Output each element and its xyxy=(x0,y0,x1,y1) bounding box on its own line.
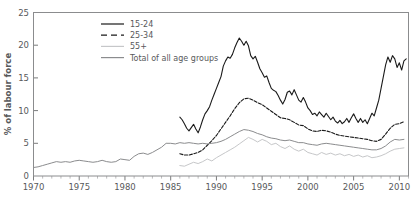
x-tick-label: 1975 xyxy=(68,182,90,192)
chart-figure: 0510152025 19701975198019851990199520002… xyxy=(0,0,419,200)
legend-label-3: Total of all age groups xyxy=(129,54,218,63)
legend-label-2: 55+ xyxy=(130,42,147,51)
x-axis-tick-labels: 197019751980198519901995200020052010 xyxy=(23,182,410,192)
y-tick-label: 0 xyxy=(24,171,29,181)
y-tick-label: 5 xyxy=(24,138,29,148)
x-tick-label: 1995 xyxy=(251,182,273,192)
x-tick-label: 1970 xyxy=(23,182,45,192)
x-tick-label: 1985 xyxy=(160,182,182,192)
y-axis-title: % of labour force xyxy=(3,53,13,136)
y-tick-label: 20 xyxy=(18,40,29,50)
line-chart-svg: 0510152025 19701975198019851990199520002… xyxy=(0,0,419,200)
x-tick-label: 2010 xyxy=(389,182,411,192)
y-tick-label: 25 xyxy=(18,8,29,18)
chart-background xyxy=(0,0,419,200)
x-tick-label: 1980 xyxy=(114,182,136,192)
legend-label-0: 15-24 xyxy=(130,20,153,29)
x-tick-label: 2000 xyxy=(297,182,319,192)
y-tick-label: 10 xyxy=(18,106,29,116)
legend-label-1: 25-34 xyxy=(130,31,153,40)
x-tick-label: 2005 xyxy=(343,182,365,192)
x-tick-label: 1990 xyxy=(206,182,228,192)
y-tick-label: 15 xyxy=(18,73,29,83)
